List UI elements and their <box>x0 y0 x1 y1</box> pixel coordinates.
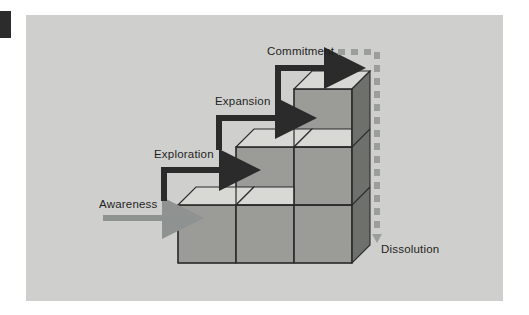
label-commitment: Commitment <box>267 46 334 58</box>
figure-canvas: Awareness Exploration Expansion Commitme… <box>0 0 529 315</box>
label-exploration: Exploration <box>154 149 214 161</box>
figure-background-panel <box>26 15 503 301</box>
label-dissolution: Dissolution <box>381 244 439 256</box>
page-margin-mark <box>0 11 11 38</box>
label-awareness: Awareness <box>99 199 157 211</box>
label-expansion: Expansion <box>215 96 271 108</box>
